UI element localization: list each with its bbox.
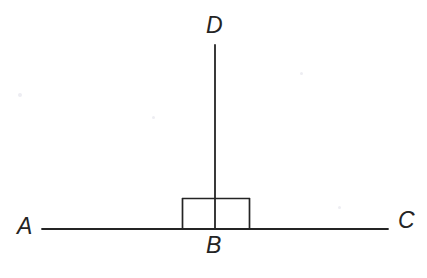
vertex-label-a: A: [17, 215, 32, 238]
vertex-label-b: B: [206, 234, 221, 257]
vertex-label-d: D: [206, 14, 223, 37]
diagram-canvas: A B C D: [0, 0, 427, 278]
right-angle-box: [182, 198, 250, 229]
vertex-label-c: C: [398, 209, 415, 232]
